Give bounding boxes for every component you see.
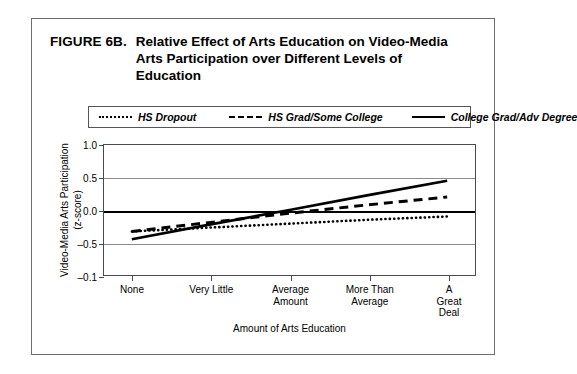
x-axis-title: Amount of Arts Education xyxy=(103,323,476,334)
x-tick-mark xyxy=(211,275,212,281)
legend-item-solid: College Grad/Adv Degree xyxy=(412,111,577,123)
x-tick-label: Average Amount xyxy=(272,284,309,307)
y-tick-label: 0.0 xyxy=(83,206,97,217)
legend-swatch-solid xyxy=(412,113,445,122)
series-lines xyxy=(104,145,475,275)
figure-title-block: FIGURE 6B. Relative Effect of Arts Educa… xyxy=(50,33,480,84)
y-axis-title-units: (z-score) xyxy=(72,190,83,229)
figure-title-text: Relative Effect of Arts Education on Vid… xyxy=(136,33,456,84)
gridline xyxy=(104,244,475,245)
zero-reference-line xyxy=(104,211,475,213)
y-tick-label: –0.5 xyxy=(78,239,97,250)
y-tick-mark xyxy=(99,244,104,245)
x-tick-mark xyxy=(370,275,371,281)
y-tick-mark xyxy=(99,211,104,212)
y-tick-label: 0.5 xyxy=(83,173,97,184)
x-tick-label: A Great Deal xyxy=(436,284,462,319)
x-tick-label: More Than Average xyxy=(346,284,394,307)
y-tick-label: 1.0 xyxy=(83,140,97,151)
series-line-solid xyxy=(132,181,447,240)
legend-swatch-dashed xyxy=(229,113,262,122)
gridline xyxy=(104,178,475,179)
legend-item-dashed: HS Grad/Some College xyxy=(229,111,382,123)
figure-panel: FIGURE 6B. Relative Effect of Arts Educa… xyxy=(31,18,495,355)
legend-label: College Grad/Adv Degree xyxy=(451,111,577,123)
legend-label: HS Dropout xyxy=(138,111,196,123)
figure-number-label: FIGURE 6B. xyxy=(50,33,136,50)
y-tick-mark xyxy=(99,145,104,146)
legend-item-dotted: HS Dropout xyxy=(99,111,196,123)
y-axis-title: Video-Media Arts Participation (z-score) xyxy=(50,144,78,276)
legend-swatch-dotted xyxy=(99,113,132,122)
y-tick-label: –0.1 xyxy=(78,272,97,283)
x-tick-mark xyxy=(291,275,292,281)
x-tick-mark xyxy=(132,275,133,281)
y-axis-title-main: Video-Media Arts Participation xyxy=(59,143,70,277)
legend-label: HS Grad/Some College xyxy=(268,111,382,123)
x-tick-label: None xyxy=(120,284,144,296)
x-tick-label: Very Little xyxy=(189,284,233,296)
plot-area: 1.00.50.0–0.5–0.1NoneVery LittleAverage … xyxy=(103,144,476,276)
chart-legend: HS DropoutHS Grad/Some CollegeCollege Gr… xyxy=(88,106,471,128)
y-tick-mark xyxy=(99,277,104,278)
y-tick-mark xyxy=(99,178,104,179)
series-line-dashed xyxy=(132,197,447,231)
x-tick-mark xyxy=(449,275,450,281)
